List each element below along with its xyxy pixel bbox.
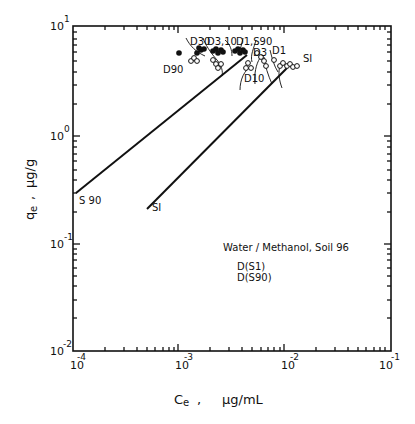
svg-text:-3: -3 [184, 352, 193, 362]
svg-text:-2: -2 [63, 339, 72, 349]
x-axis-title: C e , μg/mL [174, 392, 264, 408]
svg-text:10: 10 [50, 238, 64, 251]
svg-text:D3,10: D3,10 [207, 36, 237, 47]
y-tick-labels: 101 100 10-1 10-2 [50, 14, 73, 358]
svg-text:1: 1 [64, 14, 70, 24]
svg-text:-2: -2 [290, 352, 299, 362]
svg-text:D1: D1 [272, 45, 286, 56]
y-ticks [73, 32, 391, 318]
svg-text:10: 10 [50, 345, 64, 358]
svg-text:D3: D3 [253, 47, 267, 58]
svg-text:,: , [197, 392, 201, 407]
x-tick-labels: 10-4 10-3 10-2 10-1 [70, 352, 400, 372]
svg-text:10: 10 [50, 20, 64, 33]
s90-line [76, 55, 247, 193]
svg-text:D90: D90 [163, 64, 183, 75]
svg-text:-1: -1 [391, 352, 400, 362]
svg-text:10: 10 [50, 130, 64, 143]
svg-text:0: 0 [64, 124, 70, 134]
svg-text:D10: D10 [244, 73, 264, 84]
svg-text:e: e [28, 206, 39, 212]
svg-text:D1,S90: D1,S90 [236, 36, 272, 47]
svg-text:μg/mL: μg/mL [222, 392, 264, 407]
s1-line [147, 68, 287, 209]
svg-text:SI: SI [303, 53, 312, 64]
svg-text:-1: -1 [64, 232, 73, 242]
plot-frame [73, 26, 391, 351]
svg-text:μg/g: μg/g [22, 159, 37, 188]
chart: 101 100 10-1 10-2 10-4 10-3 10-2 10-1 C … [0, 0, 415, 424]
svg-text:C: C [174, 392, 183, 407]
legend-d-s1: D(S1) [237, 261, 265, 272]
svg-text:,: , [22, 196, 37, 200]
svg-text:S 90: S 90 [79, 195, 101, 206]
svg-text:SI: SI [152, 202, 161, 213]
svg-text:-4: -4 [77, 352, 86, 362]
annotation-text: Water / Methanol, Soil 96 [223, 242, 349, 253]
y-axis-title: q e , μg/g [22, 159, 39, 220]
legend: Water / Methanol, Soil 96 D(S1) D(S90) [223, 242, 349, 283]
svg-text:e: e [183, 397, 189, 408]
legend-d-s90: D(S90) [237, 272, 272, 283]
